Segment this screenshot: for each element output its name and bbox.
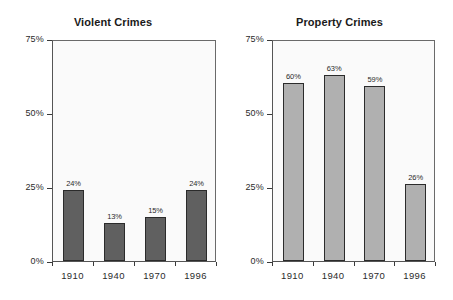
x-axis-tick-mark [354, 262, 355, 266]
bars-layer: 60%63%59%26% [273, 41, 434, 261]
bar-value-label: 24% [58, 179, 90, 188]
plot-area: 60%63%59%26% [272, 40, 435, 262]
chart-panel-violent-crimes: Violent Crimes24%13%15%24%0%25%50%75%191… [0, 0, 226, 300]
bar-value-label: 13% [99, 212, 131, 221]
y-axis-tick-mark [267, 188, 272, 189]
bar [405, 184, 426, 261]
x-axis-tick-mark [216, 262, 217, 266]
bar-value-label: 60% [277, 72, 309, 81]
y-axis-tick-label: 0% [4, 256, 44, 266]
bar [63, 190, 84, 261]
y-axis-tick-mark [267, 114, 272, 115]
plot-area: 24%13%15%24% [52, 40, 216, 262]
x-axis-tick-mark [272, 262, 273, 266]
y-axis-tick-mark [47, 114, 52, 115]
bar [186, 190, 207, 261]
x-axis-tick-mark [394, 262, 395, 266]
bar-value-label: 59% [359, 75, 391, 84]
figure: Violent Crimes24%13%15%24%0%25%50%75%191… [0, 0, 453, 300]
x-axis-tick-label: 1996 [172, 270, 220, 281]
bar [145, 217, 166, 261]
bar [364, 86, 385, 261]
y-axis-tick-label: 25% [224, 182, 264, 192]
x-axis-tick-mark [435, 262, 436, 266]
y-axis-tick-label: 75% [224, 34, 264, 44]
y-axis-tick-mark [47, 40, 52, 41]
x-axis-tick-mark [313, 262, 314, 266]
x-axis-tick-mark [134, 262, 135, 266]
chart-title: Violent Crimes [0, 16, 226, 28]
bar [283, 83, 304, 261]
y-axis-tick-label: 0% [224, 256, 264, 266]
bar-value-label: 26% [400, 173, 432, 182]
bar-value-label: 15% [140, 206, 172, 215]
x-axis-tick-mark [175, 262, 176, 266]
bars-layer: 24%13%15%24% [53, 41, 215, 261]
bar-value-label: 24% [181, 179, 213, 188]
y-axis-tick-mark [267, 40, 272, 41]
x-axis-tick-mark [52, 262, 53, 266]
chart-title: Property Crimes [226, 16, 453, 28]
bar [104, 223, 125, 261]
y-axis-tick-label: 50% [224, 108, 264, 118]
x-axis-tick-mark [93, 262, 94, 266]
y-axis-tick-label: 75% [4, 34, 44, 44]
bar [324, 75, 345, 261]
bar-value-label: 63% [318, 64, 350, 73]
x-axis-tick-label: 1996 [391, 270, 439, 281]
y-axis-tick-mark [47, 188, 52, 189]
chart-panel-property-crimes: Property Crimes60%63%59%26%0%25%50%75%19… [226, 0, 453, 300]
y-axis-tick-label: 50% [4, 108, 44, 118]
y-axis-tick-label: 25% [4, 182, 44, 192]
